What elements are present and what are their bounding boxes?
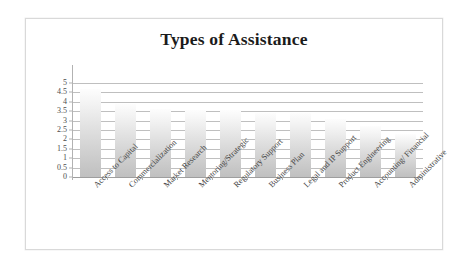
x-axis-tick-mark — [352, 177, 353, 180]
x-axis-tick-mark — [387, 177, 388, 180]
y-axis-tick-label: 2.5 — [57, 126, 67, 134]
y-axis-tick-label: 4 — [63, 98, 67, 106]
y-axis-tick-label: 1 — [63, 154, 67, 162]
y-axis-tick-label: 3 — [63, 117, 67, 125]
chart-title: Types of Assistance — [26, 29, 442, 50]
chart-frame: Types of Assistance 54.543.532.521.510.5… — [25, 18, 443, 250]
y-axis-tick-labels: 54.543.532.521.510.50 — [26, 65, 70, 177]
x-axis-tick-mark — [142, 177, 143, 180]
x-axis-category-labels: Access to CapitalCommercializationMarket… — [26, 179, 444, 249]
x-axis-tick-mark — [247, 177, 248, 180]
bar — [80, 89, 101, 177]
y-axis-tick-label: 2 — [63, 135, 67, 143]
y-axis-tick-label: 0.5 — [57, 164, 67, 172]
y-axis-tick-label: 5 — [63, 79, 67, 87]
x-axis-tick-mark — [317, 177, 318, 180]
x-axis-tick-mark — [177, 177, 178, 180]
y-axis-tick-label: 1.5 — [57, 145, 67, 153]
x-axis-tick-mark — [212, 177, 213, 180]
y-axis-tick-label: 3.5 — [57, 107, 67, 115]
x-axis-tick-mark — [422, 177, 423, 180]
chart-screenshot: Types of Assistance 54.543.532.521.510.5… — [0, 0, 469, 276]
x-axis-tick-mark — [282, 177, 283, 180]
x-axis-tick-mark — [72, 177, 73, 180]
y-axis-tick-label: 4.5 — [57, 88, 67, 96]
x-axis-tick-mark — [107, 177, 108, 180]
